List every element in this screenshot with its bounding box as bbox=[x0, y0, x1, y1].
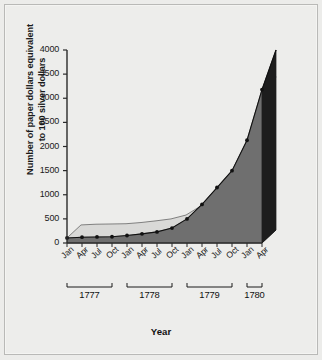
data-point-marker bbox=[110, 235, 114, 239]
y-axis-tick-label: 0 bbox=[25, 237, 59, 247]
data-point-marker bbox=[185, 217, 189, 221]
data-point-marker bbox=[245, 138, 249, 142]
data-point-marker bbox=[95, 235, 99, 239]
data-point-marker bbox=[260, 88, 264, 92]
year-group-bracket bbox=[247, 283, 262, 287]
year-group-label: 1777 bbox=[57, 289, 122, 300]
y-axis-tick-label: 1500 bbox=[25, 165, 59, 175]
data-point-marker bbox=[125, 234, 129, 238]
data-point-marker bbox=[155, 230, 159, 234]
y-axis-tick-label: 1000 bbox=[25, 189, 59, 199]
data-point-marker bbox=[140, 232, 144, 236]
y-axis-tick-label: 4000 bbox=[25, 44, 59, 54]
area-extrusion bbox=[262, 50, 276, 243]
y-axis-tick-label: 3000 bbox=[25, 92, 59, 102]
year-group-label: 1778 bbox=[117, 289, 182, 300]
figure-background: Number of paper dollars equivalent to 10… bbox=[0, 0, 322, 360]
inflation-area-chart bbox=[0, 0, 322, 360]
data-point-marker bbox=[230, 169, 234, 173]
data-point-marker bbox=[200, 203, 204, 207]
x-axis-title: Year bbox=[0, 326, 322, 337]
y-axis-tick-label: 500 bbox=[25, 213, 59, 223]
year-group-bracket bbox=[127, 283, 172, 287]
y-axis-tick-label: 2500 bbox=[25, 116, 59, 126]
year-group-bracket bbox=[187, 283, 232, 287]
year-group-bracket bbox=[67, 283, 112, 287]
data-point-marker bbox=[170, 226, 174, 230]
y-axis-tick-label: 2000 bbox=[25, 141, 59, 151]
data-point-marker bbox=[80, 235, 84, 239]
data-point-marker bbox=[215, 186, 219, 190]
y-axis-tick-label: 3500 bbox=[25, 68, 59, 78]
year-group-label: 1779 bbox=[177, 289, 242, 300]
year-group-label: 1780 bbox=[237, 289, 272, 300]
